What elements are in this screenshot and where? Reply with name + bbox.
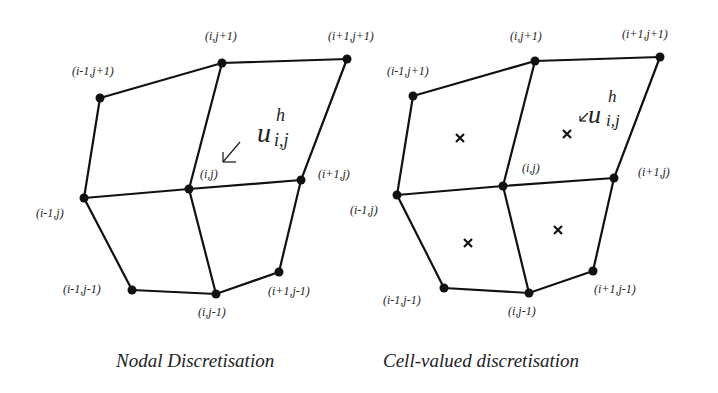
node-label: (i,j-1) bbox=[508, 304, 536, 318]
node-label: (i-1,j+1) bbox=[72, 64, 114, 78]
node-label: (i+1,j-1) bbox=[594, 282, 636, 296]
cell-mesh: (i-1,j+1) (i,j+1) (i+1,j+1) (i-1,j) (i,j… bbox=[350, 27, 670, 371]
pointer-arrow-icon bbox=[223, 142, 240, 162]
caption-nodal: Nodal Discretisation bbox=[115, 350, 274, 371]
variable-superscript: h bbox=[276, 105, 285, 125]
node-label: (i+1,j+1) bbox=[328, 29, 374, 43]
node-label: (i,j) bbox=[200, 167, 218, 181]
variable-superscript: h bbox=[608, 87, 617, 106]
node-label: (i+1,j) bbox=[638, 165, 670, 179]
node-label: (i,j-1) bbox=[198, 305, 226, 319]
variable-u: u bbox=[588, 100, 601, 129]
pointer-arrow-icon bbox=[580, 113, 588, 121]
node-label: (i+1,j) bbox=[318, 167, 350, 181]
nodal-mesh: (i-1,j+1) (i,j+1) (i+1,j+1) (i-1,j) (i,j… bbox=[36, 29, 374, 371]
variable-u: u bbox=[257, 117, 271, 148]
node-label: (i-1,j) bbox=[36, 206, 64, 220]
node-label: (i-1,j-1) bbox=[383, 293, 421, 307]
node-label: (i+1,j-1) bbox=[268, 284, 310, 298]
node-label: (i-1,j) bbox=[350, 203, 378, 217]
node-label: (i+1,j+1) bbox=[622, 27, 668, 41]
node-label: (i-1,j-1) bbox=[63, 282, 101, 296]
node-label: (i,j+1) bbox=[205, 29, 237, 43]
discretisation-diagram: (i-1,j+1) (i,j+1) (i+1,j+1) (i-1,j) (i,j… bbox=[0, 0, 718, 393]
variable-subscript: i,j bbox=[606, 111, 620, 130]
node-label: (i,j+1) bbox=[510, 29, 542, 43]
node-label: (i,j) bbox=[522, 161, 540, 175]
node-label: (i-1,j+1) bbox=[387, 64, 429, 78]
variable-subscript: i,j bbox=[274, 130, 289, 150]
caption-cell-valued: Cell-valued discretisation bbox=[383, 350, 579, 371]
